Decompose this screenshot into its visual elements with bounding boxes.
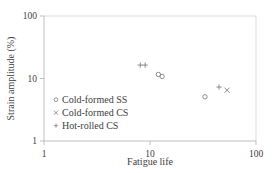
y-axis-title: Strain amplitude (%) [5,37,17,121]
data-point-circle [203,95,207,99]
legend-marker-cross-icon [54,111,58,115]
legend: Cold-formed SSCold-formed CSHot-rolled C… [54,94,128,131]
legend-label: Cold-formed CS [62,107,128,118]
legend-item: Cold-formed CS [54,107,128,118]
x-axis-title: Fatigue life [127,156,173,167]
data-point-plus [138,62,143,67]
data-points [138,62,230,99]
scatter-chart: 110100 110100 Fatigue life Strain amplit… [0,0,275,173]
y-axis-ticks: 110100 [23,11,44,146]
data-point-cross [224,88,229,93]
data-point-plus [143,62,148,67]
legend-label: Hot-rolled CS [62,120,118,131]
x-tick-label: 100 [249,149,264,159]
data-point-circle [160,74,164,78]
legend-item: Cold-formed SS [54,94,127,105]
legend-label: Cold-formed SS [62,94,127,105]
legend-marker-plus-icon [54,124,58,128]
data-point-plus [216,84,221,89]
series-hot-rolled-cs [138,62,222,89]
y-tick-label: 10 [28,74,38,84]
legend-item: Hot-rolled CS [54,120,118,131]
series-cold-formed-cs [224,88,229,93]
legend-marker-circle-icon [54,98,58,102]
y-tick-label: 100 [23,11,38,21]
y-tick-label: 1 [32,136,37,146]
series-cold-formed-ss [156,72,207,99]
x-tick-label: 1 [42,149,47,159]
